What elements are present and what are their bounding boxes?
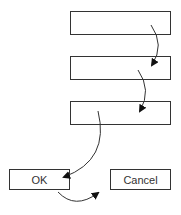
- arrow-3-to-ok: [64, 111, 100, 177]
- arrow-2-to-3: [138, 70, 146, 111]
- arrow-ok-to-cancel: [58, 192, 98, 201]
- arrow-1-to-2: [151, 25, 158, 65]
- tab-order-arrows: [0, 0, 181, 215]
